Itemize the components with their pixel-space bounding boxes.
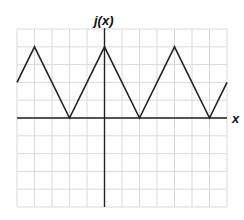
function-graph: j(x) x	[0, 0, 244, 220]
x-axis-label: x	[231, 111, 240, 126]
y-axis-label: j(x)	[92, 13, 114, 28]
